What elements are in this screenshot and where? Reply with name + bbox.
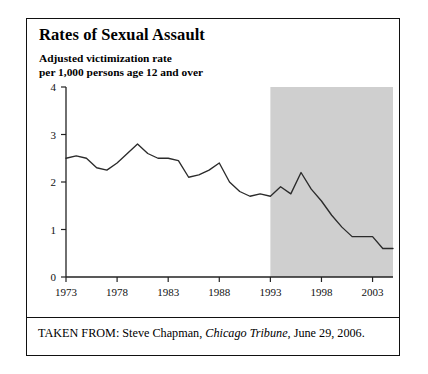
chart-plot-area: 01234 1973197819831988199319982003 [27, 81, 399, 316]
shaded-region-rect [270, 87, 393, 277]
y-axis-tick-label: 4 [51, 81, 57, 93]
x-axis-tick-label: 1973 [55, 286, 78, 298]
y-axis-ticks: 01234 [51, 81, 67, 283]
y-axis-tick-label: 0 [51, 271, 57, 283]
chart-subtitle-line-1: Adjusted victimization rate [39, 52, 203, 66]
chart-subtitle: Adjusted victimization rate per 1,000 pe… [39, 52, 203, 79]
y-axis-tick-label: 2 [51, 176, 57, 188]
source-caption: TAKEN FROM: Steve Chapman, Chicago Tribu… [38, 326, 365, 341]
caption-suffix: , June 29, 2006. [288, 326, 365, 340]
x-axis-tick-label: 1978 [106, 286, 129, 298]
caption-prefix: TAKEN FROM: Steve Chapman, [38, 326, 205, 340]
caption-source-name: Chicago Tribune [205, 326, 287, 340]
x-axis-tick-label: 1988 [208, 286, 231, 298]
line-chart-svg: 01234 1973197819831988199319982003 [27, 81, 399, 316]
figure-panel: Rates of Sexual Assault Adjusted victimi… [26, 18, 400, 356]
x-axis-tick-label: 1998 [310, 286, 333, 298]
y-axis-tick-label: 3 [51, 129, 57, 141]
page-title: Rates of Sexual Assault [39, 25, 205, 45]
caption-divider [27, 317, 399, 318]
x-axis-tick-label: 1983 [157, 286, 180, 298]
x-axis-ticks: 1973197819831988199319982003 [55, 277, 384, 298]
chart-subtitle-line-2: per 1,000 persons age 12 and over [39, 66, 203, 80]
y-axis-tick-label: 1 [51, 224, 57, 236]
shaded-region [270, 87, 393, 277]
x-axis-tick-label: 1993 [259, 286, 282, 298]
x-axis-tick-label: 2003 [362, 286, 385, 298]
